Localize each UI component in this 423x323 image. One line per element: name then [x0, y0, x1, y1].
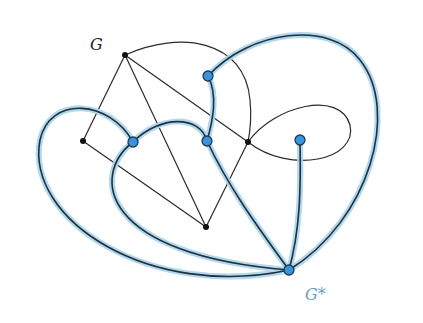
planar-dual-diagram: G G*: [0, 0, 423, 323]
dual-vertex-f2: [128, 137, 138, 147]
dual-edge-outer-right: [208, 35, 378, 270]
edge-a-b: [83, 55, 125, 141]
primal-vertex-b: [80, 138, 86, 144]
label-dual-graph: G*: [305, 285, 326, 304]
dual-vertex-f3: [202, 136, 212, 146]
label-primal-graph: G: [90, 35, 103, 54]
primal-vertex-a: [122, 52, 128, 58]
dual-edge-outer-left: [39, 108, 289, 276]
primal-vertex-c: [203, 224, 209, 230]
dual-vertex-f5: [284, 265, 294, 275]
edge-a-d: [125, 55, 248, 142]
dual-edge-f2-f5: [112, 142, 289, 270]
dual-vertex-f4: [295, 135, 305, 145]
dual-vertex-f1: [203, 71, 213, 81]
primal-vertex-d: [245, 139, 251, 145]
edge-b-c: [83, 141, 206, 227]
